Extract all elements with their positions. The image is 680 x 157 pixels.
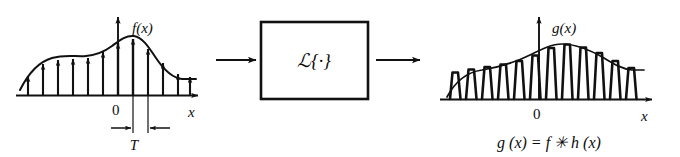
operator-label: ℒ{·} <box>297 50 331 71</box>
linear-operator-block: ℒ{·} <box>261 22 368 99</box>
signal-processing-figure: f(x) 0 x T ℒ{·} <box>0 0 680 157</box>
period-label: T <box>130 137 140 153</box>
output-pulse <box>514 61 525 99</box>
output-pulse <box>610 61 621 99</box>
right-function-label: g(x) <box>552 20 576 37</box>
output-pulse <box>562 45 573 100</box>
figure-canvas: f(x) 0 x T ℒ{·} <box>0 0 680 157</box>
right-origin-label: 0 <box>533 106 541 122</box>
output-pulse <box>626 68 637 99</box>
convolution-formula: g (x) = f ✳ h (x) <box>497 134 601 152</box>
right-x-axis-label: x <box>640 108 648 124</box>
output-pulse <box>482 67 493 99</box>
left-envelope-curve <box>20 36 196 90</box>
right-plot-group: g(x) 0 x g (x) = f ✳ h (x) <box>440 17 652 152</box>
output-pulse <box>578 48 589 100</box>
left-x-axis-label: x <box>187 104 195 120</box>
left-function-label: f(x) <box>132 20 153 37</box>
output-pulse <box>594 53 605 99</box>
pulse-train <box>450 45 637 100</box>
left-plot-group: f(x) 0 x T <box>16 17 198 153</box>
left-origin-label: 0 <box>112 102 120 118</box>
output-pulse <box>498 65 509 100</box>
output-pulse <box>546 48 557 99</box>
output-pulse <box>466 70 477 100</box>
output-pulse <box>530 56 541 100</box>
